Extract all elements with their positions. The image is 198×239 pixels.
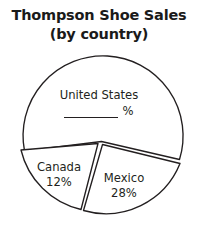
- pie-label-canada-name: Canada: [26, 160, 92, 175]
- percent-symbol: %: [122, 104, 133, 119]
- pie-label-mexico-value: 28%: [93, 186, 155, 201]
- pie-label-united-states: United States %: [0, 88, 198, 118]
- pie-label-mexico: Mexico 28%: [93, 171, 155, 200]
- pie-label-canada: Canada 12%: [26, 160, 92, 189]
- pie-label-united-states-name: United States: [0, 88, 198, 103]
- pie-graphic: [0, 0, 198, 239]
- pie-label-united-states-value: %: [0, 104, 198, 119]
- pie-label-canada-value: 12%: [26, 175, 92, 190]
- blank-answer-line[interactable]: [64, 106, 118, 118]
- pie-label-mexico-name: Mexico: [93, 171, 155, 186]
- pie-chart-figure: Thompson Shoe Sales (by country) United …: [0, 0, 198, 239]
